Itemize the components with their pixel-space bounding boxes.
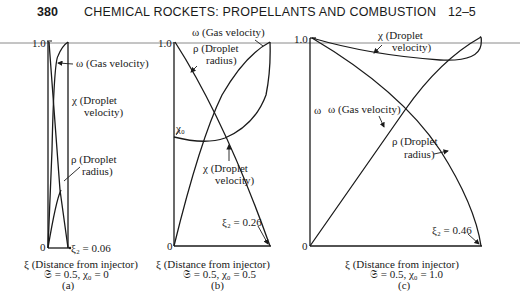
chi-label-line2: velocity) — [392, 41, 431, 54]
omega-axis-label: ω — [314, 104, 321, 116]
y-tick-top: 1.0 — [32, 37, 46, 49]
omega-label: ω (Gas velocity) — [192, 26, 265, 39]
y-tick-bottom: 0 — [302, 240, 308, 252]
rho-label-line2: radius) — [206, 54, 237, 67]
rho-label-line2: radius) — [404, 148, 435, 161]
y-tick-top: 1.0 — [158, 37, 172, 49]
xi2-annotation: ξ₂ = 0.26 — [222, 216, 262, 229]
y-tick-top: 1.0 — [294, 33, 308, 45]
omega-label: ω (Gas velocity) — [76, 57, 149, 70]
panel-a: 1.0 0 ω (Gas velocity) χ (Droplet veloci… — [24, 37, 149, 271]
panel-b: 1.0 0 ω (Gas velocity) ρ (Droplet radius… — [156, 26, 271, 271]
rho-label-line2: radius) — [82, 165, 113, 178]
panel-c-tag: (c) — [398, 279, 410, 291]
panel-c: 1.0 0 χ (Droplet velocity) ω ω (Gas velo… — [294, 29, 482, 271]
omega-label: ω (Gas velocity) — [328, 103, 401, 116]
chi-label-line2: velocity) — [84, 106, 123, 119]
y-tick-bottom: 0 — [40, 241, 46, 253]
y-tick-bottom: 0 — [167, 240, 173, 252]
xi2-annotation: ξ₂ = 0.06 — [71, 242, 111, 255]
rho-label-line1: ρ (Droplet — [392, 135, 438, 148]
chi0-annotation: χ₀ — [175, 122, 185, 134]
panel-a-tag: (a) — [62, 279, 74, 291]
panel-a-params: 𝔖 = 0.5, χ₀ = 0 — [44, 268, 109, 281]
panel-b-tag: (b) — [211, 279, 224, 291]
xi2-annotation: ξ₂ = 0.46 — [432, 224, 472, 237]
chi-label-line2: velocity) — [215, 174, 254, 187]
